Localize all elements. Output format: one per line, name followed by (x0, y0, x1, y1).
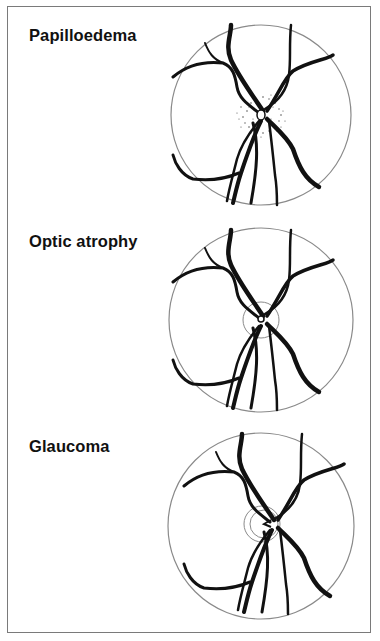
optic-disc (257, 110, 265, 120)
fundus-optic-atrophy (169, 228, 353, 412)
fundus-diagrams (0, 0, 380, 641)
fundus-papilloedema (171, 25, 351, 205)
fundus-glaucoma (168, 433, 354, 619)
optic-disc (258, 316, 264, 322)
